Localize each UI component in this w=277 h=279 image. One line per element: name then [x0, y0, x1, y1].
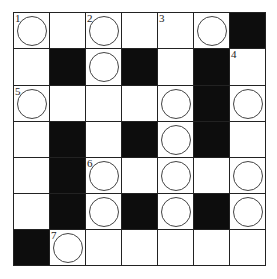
clue-number: 1 [15, 13, 21, 24]
grid-cell[interactable] [49, 12, 85, 48]
black-cell [193, 85, 229, 121]
grid-cell[interactable] [229, 193, 265, 229]
circle-icon [197, 16, 227, 46]
grid-cell[interactable] [85, 193, 121, 229]
grid-cell[interactable] [157, 157, 193, 193]
grid-cell[interactable] [157, 121, 193, 157]
grid-cell[interactable] [229, 229, 265, 265]
black-cell [49, 121, 85, 157]
circle-icon [17, 16, 47, 46]
grid-cell[interactable] [13, 48, 49, 85]
grid-cell[interactable] [121, 229, 157, 265]
grid-cell[interactable] [157, 193, 193, 229]
clue-number: 2 [87, 13, 93, 24]
grid-cell[interactable] [193, 157, 229, 193]
grid-cell[interactable]: 2 [85, 12, 121, 48]
grid-cell[interactable] [49, 85, 85, 121]
clue-number: 3 [159, 13, 165, 24]
black-cell [229, 12, 265, 48]
circle-icon [89, 197, 119, 227]
grid-cell[interactable] [157, 48, 193, 85]
grid-cell[interactable] [229, 85, 265, 121]
clue-number: 6 [87, 158, 93, 169]
grid-cell[interactable]: 6 [85, 157, 121, 193]
circle-icon [161, 89, 191, 119]
black-cell [121, 193, 157, 229]
grid-cell[interactable] [13, 193, 49, 229]
black-cell [49, 193, 85, 229]
circle-icon [161, 197, 191, 227]
grid-cell[interactable] [85, 48, 121, 85]
grid-cell[interactable] [85, 85, 121, 121]
black-cell [121, 48, 157, 85]
clue-number: 5 [15, 86, 21, 97]
grid-cell[interactable] [85, 121, 121, 157]
grid-cell[interactable]: 7 [49, 229, 85, 265]
black-cell [193, 193, 229, 229]
grid-cell[interactable] [121, 157, 157, 193]
circle-icon [233, 89, 263, 119]
grid-cell[interactable]: 3 [157, 12, 193, 48]
grid-cell[interactable]: 5 [13, 85, 49, 121]
grid-cell[interactable] [157, 229, 193, 265]
circle-icon [161, 125, 191, 155]
grid-cell[interactable] [229, 121, 265, 157]
crossword-grid: 1234567 [13, 12, 266, 266]
grid-cell[interactable] [13, 121, 49, 157]
grid-cell[interactable] [85, 229, 121, 265]
grid-cell[interactable] [157, 85, 193, 121]
grid-cell[interactable]: 4 [229, 48, 265, 85]
circle-icon [53, 233, 83, 263]
circle-icon [17, 89, 47, 119]
grid-cell[interactable]: 1 [13, 12, 49, 48]
grid-cell[interactable] [121, 12, 157, 48]
grid-cell[interactable] [13, 157, 49, 193]
circle-icon [89, 161, 119, 191]
black-cell [193, 121, 229, 157]
circle-icon [233, 161, 263, 191]
clue-number: 4 [231, 49, 237, 60]
grid-cell[interactable] [193, 229, 229, 265]
circle-icon [89, 52, 119, 82]
black-cell [49, 48, 85, 85]
clue-number: 7 [51, 230, 57, 241]
black-cell [49, 157, 85, 193]
black-cell [121, 121, 157, 157]
grid-cell[interactable] [193, 12, 229, 48]
grid-cell[interactable] [121, 85, 157, 121]
black-cell [193, 48, 229, 85]
circle-icon [89, 16, 119, 46]
grid-cell[interactable] [229, 157, 265, 193]
black-cell [13, 229, 49, 265]
circle-icon [233, 197, 263, 227]
circle-icon [161, 161, 191, 191]
